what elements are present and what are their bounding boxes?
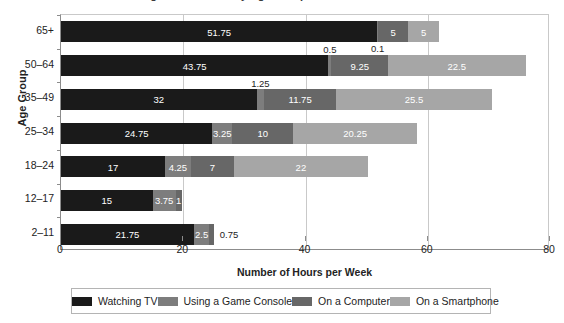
x-tick-label-20: 20 <box>162 243 202 255</box>
legend-item[interactable]: Watching TV <box>72 295 158 307</box>
bar-value-label: 1.25 <box>251 78 270 89</box>
bar-segment[interactable] <box>61 55 328 76</box>
legend-swatch-icon <box>390 297 410 306</box>
x-tick-label-0: 0 <box>40 243 80 255</box>
bar-segment[interactable] <box>378 21 409 42</box>
y-tick-mark <box>57 15 61 16</box>
bar-segment[interactable] <box>212 123 232 144</box>
x-tick-mark-40 <box>305 236 306 241</box>
y-tick-label-50-64: 50–64 <box>0 58 54 70</box>
chart-title: Average Screen Time by Age Group <box>120 0 307 1</box>
legend-item[interactable]: Using a Game Console <box>158 295 293 307</box>
y-tick-label-65+: 65+ <box>0 24 54 36</box>
bar-row[interactable]: 43.750.59.2522.5 <box>61 55 550 76</box>
bar-segment[interactable] <box>191 156 234 177</box>
legend-swatch-icon <box>72 297 92 306</box>
bar-value-label: 0.5 <box>323 44 336 55</box>
bar-segment[interactable] <box>388 55 526 76</box>
bar-segment[interactable] <box>257 89 265 110</box>
chart-legend: Watching TVUsing a Game ConsoleOn a Comp… <box>71 288 491 314</box>
chart-title-clipped: Average Screen Time by Age Group <box>0 0 564 3</box>
bar-row[interactable]: 24.753.251020.25 <box>61 123 550 144</box>
bar-segment[interactable] <box>61 224 194 245</box>
bar-segment[interactable] <box>209 224 214 245</box>
bar-segment[interactable] <box>293 123 417 144</box>
y-tick-mark <box>57 150 61 151</box>
y-tick-label-35-49: 35–49 <box>0 91 54 103</box>
y-tick-mark <box>57 82 61 83</box>
bar-row[interactable]: 51.750.155 <box>61 21 550 42</box>
bar-row[interactable]: 153.751 <box>61 190 550 211</box>
bar-segment[interactable] <box>234 156 368 177</box>
bar-segment[interactable] <box>194 224 209 245</box>
plot-area: 51.750.15543.750.59.2522.5321.2511.7525.… <box>60 14 549 250</box>
bar-segment[interactable] <box>408 21 439 42</box>
legend-item[interactable]: On a Smartphone <box>390 295 499 307</box>
legend-swatch-icon <box>158 297 178 306</box>
legend-label: Using a Game Console <box>184 295 293 307</box>
y-tick-label-25-34: 25–34 <box>0 125 54 137</box>
bar-segment[interactable] <box>61 21 377 42</box>
bar-segment[interactable] <box>232 123 293 144</box>
x-tick-mark-0 <box>60 236 61 241</box>
legend-swatch-icon <box>292 297 312 306</box>
y-tick-label-12-17: 12–17 <box>0 192 54 204</box>
bar-segment[interactable] <box>61 89 257 110</box>
bar-segment[interactable] <box>165 156 191 177</box>
x-tick-mark-80 <box>549 236 550 241</box>
x-tick-mark-20 <box>182 236 183 241</box>
bar-segment[interactable] <box>61 156 165 177</box>
bar-row[interactable]: 321.2511.7525.5 <box>61 89 550 110</box>
legend-label: On a Computer <box>318 295 390 307</box>
bar-segment[interactable] <box>336 89 492 110</box>
bar-row[interactable]: 174.25722 <box>61 156 550 177</box>
y-tick-mark <box>57 116 61 117</box>
bar-segment[interactable] <box>61 190 153 211</box>
y-tick-mark <box>57 49 61 50</box>
bar-segment[interactable] <box>331 55 388 76</box>
bar-value-label: 0.1 <box>371 43 384 54</box>
y-tick-mark <box>57 217 61 218</box>
legend-item[interactable]: On a Computer <box>292 295 390 307</box>
bar-row[interactable]: 21.752.50.75 <box>61 224 550 245</box>
x-tick-label-80: 80 <box>529 243 564 255</box>
y-tick-label-2-11: 2–11 <box>0 226 54 238</box>
legend-label: On a Smartphone <box>416 295 499 307</box>
x-tick-mark-60 <box>427 236 428 241</box>
x-axis-title: Number of Hours per Week <box>60 266 549 278</box>
bar-segment[interactable] <box>264 89 336 110</box>
bar-segment[interactable] <box>153 190 176 211</box>
bar-segment[interactable] <box>176 190 182 211</box>
x-tick-label-40: 40 <box>285 243 325 255</box>
x-tick-label-60: 60 <box>407 243 447 255</box>
bar-value-label: 0.75 <box>220 229 239 240</box>
y-tick-mark <box>57 184 61 185</box>
legend-label: Watching TV <box>98 295 158 307</box>
chart-root: Average Screen Time by Age Group Age Gro… <box>0 0 564 323</box>
y-tick-label-18-24: 18–24 <box>0 159 54 171</box>
bar-segment[interactable] <box>61 123 212 144</box>
